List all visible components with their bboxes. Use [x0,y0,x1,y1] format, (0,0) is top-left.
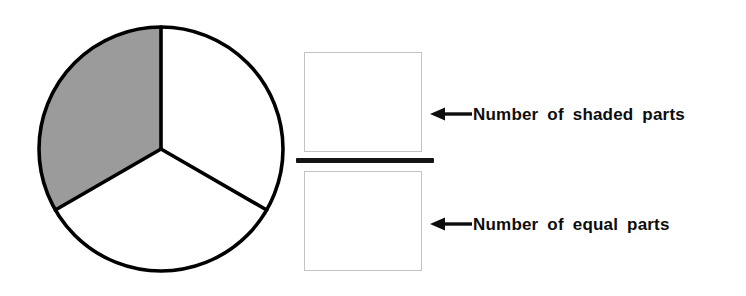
callout-equal-parts: Number of equal parts [430,211,670,237]
denominator-answer-box[interactable] [304,171,422,271]
left-arrow-icon [430,216,472,232]
numerator-answer-box[interactable] [304,52,422,152]
fraction-bar [296,158,434,163]
callout-shaded-parts-label: Number of shaded parts [473,106,685,123]
callout-shaded-parts: Number of shaded parts [430,101,685,127]
pie-diagram [36,19,287,276]
left-arrow-icon [430,106,472,122]
worksheet-canvas: Number of shaded parts Number of equal p… [0,0,746,296]
callout-equal-parts-label: Number of equal parts [473,216,670,233]
fraction-answer-group [296,52,436,271]
pie-diagram-svg [36,19,287,276]
